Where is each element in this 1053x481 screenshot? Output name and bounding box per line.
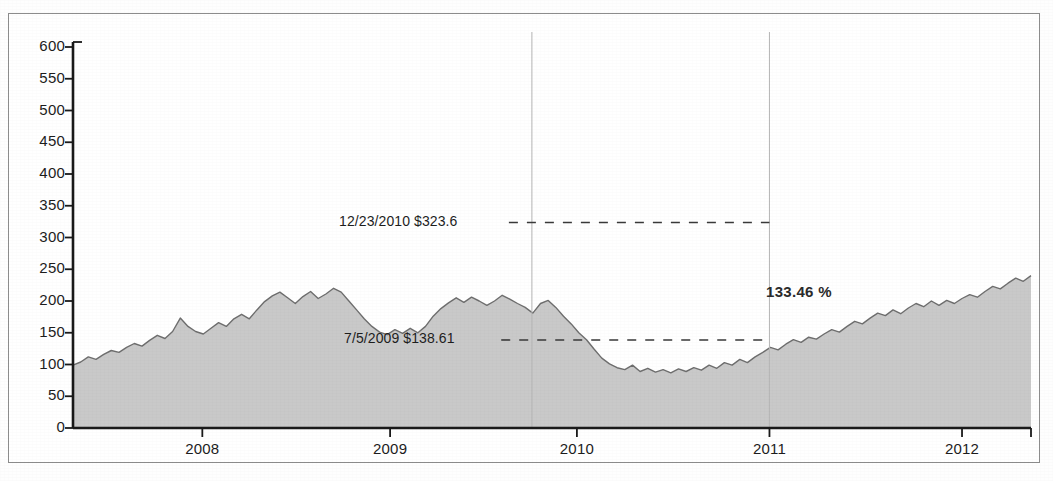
x-tick-label: 2011	[734, 440, 804, 457]
y-tick-label: 350	[9, 196, 65, 213]
chart-frame: 050100150200250300350400450500550600 200…	[8, 13, 1040, 463]
y-tick-label: 50	[9, 386, 65, 403]
upper-price-annotation: 12/23/2010 $323.6	[339, 213, 457, 229]
y-tick-label: 550	[9, 69, 65, 86]
y-tick-label: 100	[9, 355, 65, 372]
y-tick-label: 150	[9, 323, 65, 340]
y-tick-label: 500	[9, 101, 65, 118]
x-tick-label: 2008	[167, 440, 237, 457]
plot-area	[73, 276, 1031, 428]
chart-screenshot: 050100150200250300350400450500550600 200…	[0, 0, 1053, 481]
price-area-fill	[73, 276, 1031, 428]
y-tick-label: 250	[9, 259, 65, 276]
x-tick-label: 2010	[542, 440, 612, 457]
x-tick-label: 2012	[927, 440, 997, 457]
x-tick-label: 2009	[355, 440, 425, 457]
y-tick-label: 0	[9, 418, 65, 435]
lower-price-annotation: 7/5/2009 $138.61	[344, 330, 455, 346]
percent-change-annotation: 133.46 %	[766, 283, 832, 300]
y-tick-label: 300	[9, 228, 65, 245]
y-tick-label: 600	[9, 37, 65, 54]
x-axis-ticks	[202, 428, 1031, 437]
y-tick-label: 450	[9, 132, 65, 149]
area-chart-plot[interactable]	[9, 14, 1039, 462]
y-tick-label: 400	[9, 164, 65, 181]
y-tick-label: 200	[9, 291, 65, 308]
